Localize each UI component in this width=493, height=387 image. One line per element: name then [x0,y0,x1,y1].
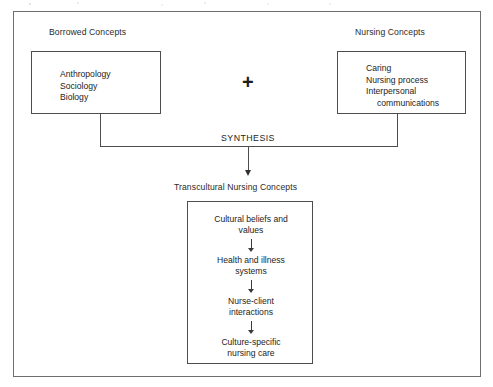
nursing-concept-item: Interpersonal [366,86,416,98]
synthesis-arrow-shaft [248,146,249,172]
flow-step-line: Nurse-client [188,296,314,307]
transcultural-nursing-caption: Transcultural Nursing Concepts [174,182,297,192]
borrowed-concept-item: Sociology [60,81,97,93]
flow-step-line: values [188,225,314,236]
nursing-concept-item: communications [366,98,439,110]
synthesis-label: SYNTHESIS [217,133,279,143]
left-connector-stem [100,114,101,147]
flow-step-line: Health and illness [188,255,314,266]
synthesis-crossbar [100,146,398,147]
borrowed-concept-item: Anthropology [60,69,111,81]
flow-step: Nurse-client interactions [188,296,314,319]
synthesis-arrow-head [245,170,251,176]
flow-arrow-icon [188,239,314,248]
flow-step: Cultural beliefs and values [188,214,314,237]
borrowed-concepts-box: Anthropology Sociology Biology [31,51,161,114]
nursing-concepts-caption: Nursing Concepts [355,27,425,37]
flow-step-line: systems [188,266,314,277]
flow-step-line: nursing care [188,348,314,359]
flow-arrow-icon [188,321,314,330]
nursing-concept-item: Caring [366,63,391,75]
diagram-frame: Borrowed Concepts Anthropology Sociology… [13,11,481,377]
right-connector-stem [397,114,398,147]
transcultural-nursing-box: Cultural beliefs and values Health and i… [187,201,313,364]
borrowed-concepts-caption: Borrowed Concepts [49,27,126,37]
flow-step-line: interactions [188,307,314,318]
flow-step: Culture-specific nursing care [188,337,314,360]
flow-arrow-icon [188,280,314,289]
scan-noise-artifact [0,0,493,11]
nursing-concepts-box: Caring Nursing process Interpersonal com… [337,51,466,114]
flow-step: Health and illness systems [188,255,314,278]
flow-step-line: Culture-specific [188,337,314,348]
borrowed-concept-item: Biology [60,92,88,104]
nursing-concept-item: Nursing process [366,75,428,87]
plus-operator: + [242,72,254,92]
flow-step-line: Cultural beliefs and [188,214,314,225]
